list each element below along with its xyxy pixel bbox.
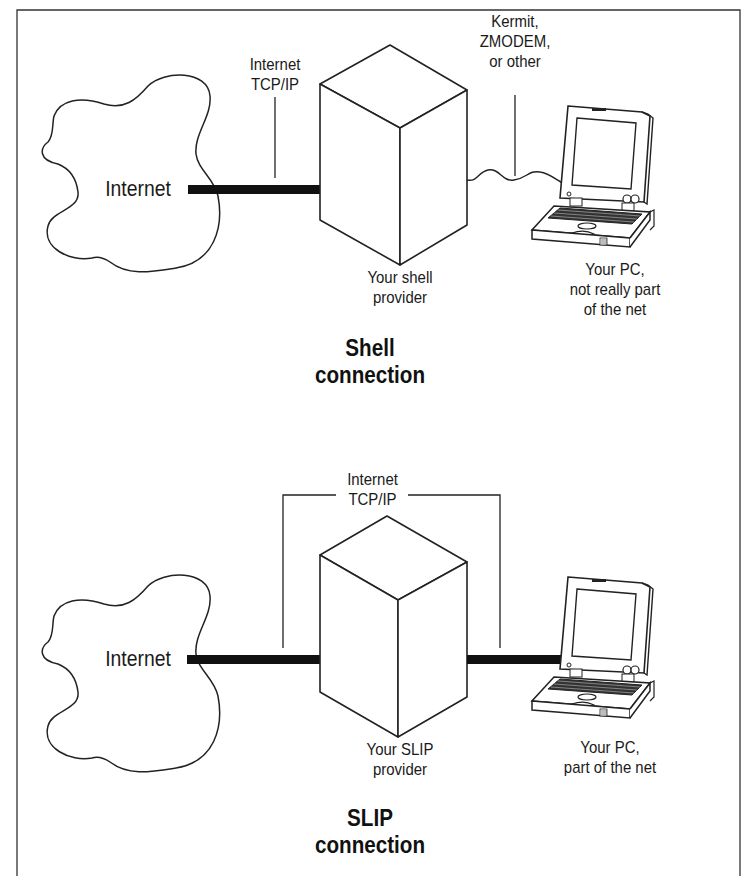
shell-pc-label: Your PC, not really part of the net [549, 260, 681, 320]
internet-cloud-icon [42, 75, 219, 272]
internet-cloud-icon [42, 575, 219, 772]
slip-tcpip-label: Internet TCP/IP [331, 470, 415, 510]
shell-connection-title: Shell connection [310, 334, 430, 388]
tcpip-link [188, 185, 320, 194]
shell-tcpip-label: Internet TCP/IP [235, 55, 314, 95]
server-cube-icon [320, 45, 467, 265]
slip-pc-label: Your PC, part of the net [540, 738, 681, 778]
shell-protocol-label: Kermit, ZMODEM, or other [467, 12, 564, 72]
tcpip-link-left [187, 655, 320, 664]
server-cube-icon [320, 516, 467, 737]
shell-internet-label: Internet [94, 177, 182, 201]
slip-section [42, 495, 654, 772]
shell-provider-label: Your shell provider [347, 268, 453, 308]
slip-connection-title: SLIP connection [310, 804, 430, 858]
slip-internet-label: Internet [94, 647, 182, 671]
slip-provider-label: Your SLIP provider [347, 740, 453, 780]
laptop-icon [532, 577, 654, 718]
shell-section [42, 45, 654, 272]
